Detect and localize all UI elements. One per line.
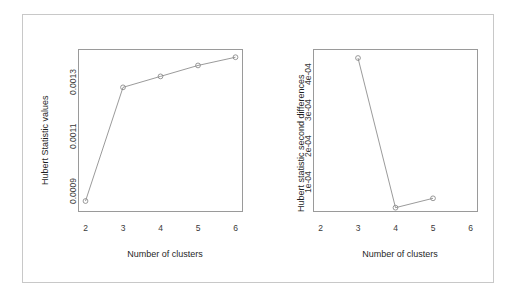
y-axis-title-right: Hubert statistic second differences (296, 75, 307, 212)
data-point-marker (356, 56, 361, 61)
x-tick-label: 3 (348, 223, 368, 233)
x-tick-label: 4 (386, 223, 406, 233)
data-line (358, 58, 433, 208)
x-tick-label: 2 (311, 223, 331, 233)
figure-container: 23456 0.00090.00110.0013 Number of clust… (0, 0, 518, 298)
x-tick-label: 6 (461, 223, 481, 233)
x-tick-label: 5 (423, 223, 443, 233)
x-axis-title-right: Number of clusters (320, 249, 480, 260)
